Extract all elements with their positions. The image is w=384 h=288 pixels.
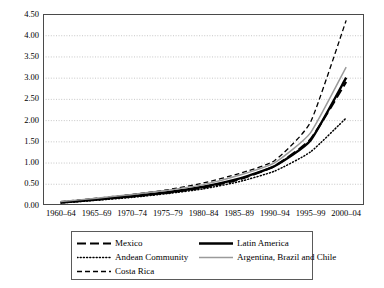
series-line-argentina-brazil-and-chile xyxy=(61,67,346,202)
legend-item[interactable]: Mexico xyxy=(77,236,197,250)
legend-line-swatch xyxy=(77,252,111,262)
y-axis-tick-label: 1.00 xyxy=(24,158,39,167)
y-axis-tick-label: 2.50 xyxy=(24,94,39,103)
legend-item-label: Mexico xyxy=(115,238,143,248)
legend-line-swatch xyxy=(199,238,233,248)
y-axis-tick-label: 4.50 xyxy=(24,10,39,19)
chart-figure: 0.000.501.001.502.002.503.003.504.004.50… xyxy=(0,0,384,288)
series-line-costa-rica xyxy=(61,20,346,201)
x-axis-tick-label: 1980–84 xyxy=(189,208,219,218)
legend-item-label: Argentina, Brazil and Chile xyxy=(237,252,336,262)
legend-line-swatch xyxy=(199,252,233,262)
legend-item[interactable]: Argentina, Brazil and Chile xyxy=(199,250,311,264)
y-axis-tick-label: 0.50 xyxy=(24,179,39,188)
x-axis-tick-label: 1960–64 xyxy=(46,208,76,218)
legend-item-label: Latin America xyxy=(237,238,289,248)
chart-canvas xyxy=(43,14,364,205)
legend-item[interactable]: Latin America xyxy=(199,236,311,250)
x-axis-tick-label: 1995–99 xyxy=(296,208,326,218)
series-lines xyxy=(61,20,346,203)
legend-line-swatch xyxy=(77,238,111,248)
y-axis-tick-label: 0.00 xyxy=(24,201,39,210)
x-axis-tick-label: 1985–89 xyxy=(224,208,254,218)
y-axis-tick-label: 2.00 xyxy=(24,116,39,125)
legend-item-label: Costa Rica xyxy=(115,266,154,276)
x-axis-tick-label: 1990–94 xyxy=(260,208,290,218)
legend-line-swatch xyxy=(77,266,111,276)
x-axis-tick-label: 1965–69 xyxy=(82,208,112,218)
series-line-andean-community xyxy=(61,118,346,203)
chart-legend: MexicoLatin AmericaAndean CommunityArgen… xyxy=(71,231,313,280)
plot-area xyxy=(43,14,364,205)
y-axis-tick-label: 1.50 xyxy=(24,137,39,146)
y-axis-tick-label: 3.50 xyxy=(24,52,39,61)
x-axis-tick-label: 2000–04 xyxy=(331,208,361,218)
x-axis-tick-label: 1970–74 xyxy=(117,208,147,218)
x-axis-tick-label: 1975–79 xyxy=(153,208,183,218)
x-axis-tick-labels: 1960–641965–691970–741975–791980–841985–… xyxy=(43,208,364,222)
y-axis-tick-label: 3.00 xyxy=(24,73,39,82)
y-axis-tick-label: 4.00 xyxy=(24,31,39,40)
legend-item-label: Andean Community xyxy=(115,252,188,262)
legend-item[interactable]: Andean Community xyxy=(77,250,197,264)
legend-item[interactable]: Costa Rica xyxy=(77,264,197,278)
plot-frame xyxy=(43,15,364,206)
y-axis-tick-labels: 0.000.501.001.502.002.503.003.504.004.50 xyxy=(0,0,39,288)
